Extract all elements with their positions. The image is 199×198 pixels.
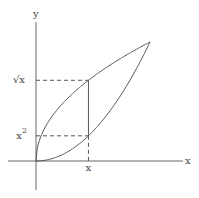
sqrt-tick-label: √x	[13, 74, 25, 85]
x-axis-label: x	[185, 155, 191, 166]
square-tick-exponent: 2	[22, 126, 27, 135]
diagram: x y x √x x2	[0, 0, 199, 198]
sqrt-curve	[36, 42, 150, 161]
x-tick-label: x	[86, 162, 92, 173]
y-axis-label: y	[32, 8, 39, 19]
square-tick-label: x2	[16, 126, 27, 141]
square-curve	[36, 42, 150, 161]
